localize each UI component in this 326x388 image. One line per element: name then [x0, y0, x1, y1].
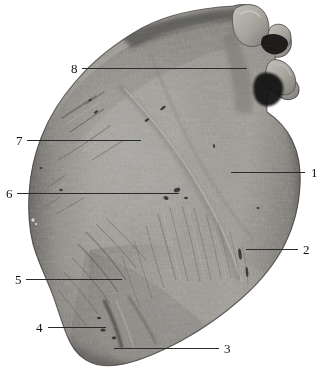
anatomical-figure: 1 2 3 4 5 6 7 8 — [0, 0, 326, 388]
leader-line-4 — [48, 327, 106, 328]
label-1: 1 — [311, 166, 318, 179]
leader-line-7 — [27, 140, 141, 141]
leader-line-3 — [114, 348, 219, 349]
label-2: 2 — [303, 243, 310, 256]
leader-line-2 — [246, 249, 298, 250]
label-callout-layer: 1 2 3 4 5 6 7 8 — [0, 0, 326, 388]
label-6: 6 — [6, 187, 13, 200]
label-7: 7 — [16, 134, 23, 147]
label-8: 8 — [71, 62, 78, 75]
label-5: 5 — [15, 273, 22, 286]
leader-line-8 — [82, 68, 247, 69]
leader-line-6 — [17, 193, 179, 194]
label-4: 4 — [36, 321, 43, 334]
leader-line-1 — [231, 172, 305, 173]
leader-line-5 — [26, 279, 122, 280]
label-3: 3 — [224, 342, 231, 355]
